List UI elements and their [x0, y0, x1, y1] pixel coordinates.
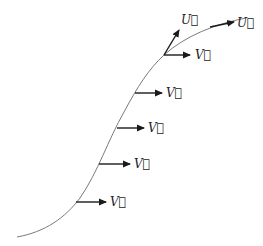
vector-labels: V⃗V⃗V⃗V⃗V⃗U⃗U⃗ — [110, 13, 254, 209]
u-arrow-upper-label: U⃗ — [181, 13, 198, 27]
u-arrow-far-icon — [210, 22, 234, 27]
streamline-diagram: V⃗V⃗V⃗V⃗V⃗U⃗U⃗ — [0, 0, 263, 246]
diagram-canvas: V⃗V⃗V⃗V⃗V⃗U⃗U⃗ — [0, 0, 263, 246]
v-arrow-2-label: V⃗ — [166, 86, 182, 100]
v-arrow-3-label: V⃗ — [148, 121, 164, 135]
v-arrow-5-label: V⃗ — [110, 195, 126, 209]
u-arrow-far-label: U⃗ — [237, 16, 254, 30]
v-arrow-4-label: V⃗ — [134, 157, 150, 171]
v-arrow-1-label: V⃗ — [195, 48, 211, 62]
u-arrow-upper-icon — [164, 30, 179, 55]
